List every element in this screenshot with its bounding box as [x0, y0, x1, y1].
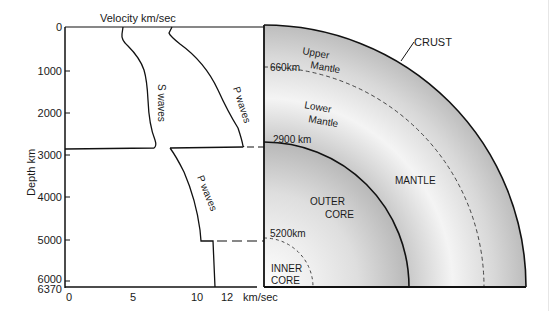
x-tick-10: 10	[191, 291, 203, 303]
label-outer-core-2: CORE	[325, 209, 354, 220]
s-wave-curve	[65, 27, 156, 149]
velocity-chart: Velocity km/sec 0 1000 2000 3000 4000 50…	[25, 12, 278, 303]
label-mantle: MANTLE	[395, 175, 436, 186]
earth-cross-section: CRUST Upper Mantle 660km Lower Mantle 29…	[264, 25, 526, 287]
y-tick-5000: 5000	[38, 234, 62, 246]
label-inner-core-2: CORE	[271, 275, 300, 286]
y-tick-6370: 6370	[38, 283, 62, 295]
y-tick-1000: 1000	[38, 65, 62, 77]
earth-diagram: CRUST Upper Mantle 660km Lower Mantle 29…	[0, 0, 551, 311]
y-axis-label: Depth km	[25, 149, 37, 196]
p-wave-core-curve	[170, 147, 243, 287]
label-2900km: 2900 km	[273, 134, 311, 145]
y-tick-0: 0	[56, 21, 62, 33]
label-5200km: 5200km	[270, 228, 306, 239]
y-tick-3000: 3000	[38, 149, 62, 161]
chart-title: Velocity km/sec	[100, 12, 176, 24]
label-outer-core-1: OUTER	[310, 196, 345, 207]
x-tick-5: 5	[130, 291, 136, 303]
label-660km: 660km	[270, 62, 300, 73]
label-crust: CRUST	[414, 36, 452, 48]
y-tick-2000: 2000	[38, 107, 62, 119]
x-tick-12: 12	[221, 291, 233, 303]
p-waves-core-label: P waves	[195, 174, 219, 213]
p-waves-mantle-label: P waves	[231, 85, 253, 124]
p-wave-mantle-curve	[169, 27, 244, 147]
x-axis-unit: km/sec	[243, 291, 278, 303]
y-tick-4000: 4000	[38, 191, 62, 203]
x-tick-0: 0	[66, 291, 72, 303]
label-inner-core-1: INNER	[271, 263, 302, 274]
s-waves-label: S waves	[156, 84, 167, 122]
crust-leader-line	[401, 42, 414, 61]
